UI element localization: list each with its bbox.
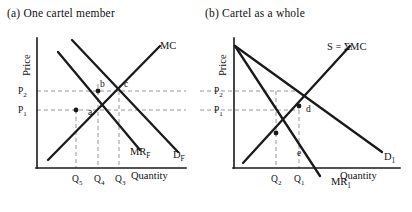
panel-b-point-label-e: e (297, 148, 301, 158)
panel-a-q4-base: Q (94, 174, 101, 184)
panel-b-price-tick-p1: P1 (214, 105, 223, 118)
panel-a-q5-base: Q (72, 174, 79, 184)
panel-a-p1-sub: 1 (23, 110, 27, 118)
panel-b-p1-sub: 1 (219, 110, 223, 118)
panel-a-point-label-a: a (88, 107, 92, 117)
panel-a-mc-curve (48, 46, 160, 160)
panel-b-supply-curve-label: S = ΣMC (327, 41, 366, 52)
panel-a-marginal-revenue-curve (58, 52, 140, 150)
panel-a-q4-sub: 4 (101, 179, 105, 187)
panel-b-y-axis-label: Price (217, 54, 228, 76)
panel-a-mrf-curve-label: MRF (130, 146, 151, 160)
panel-b-mr1-base: MR (331, 176, 347, 187)
panel-a-q3-base: Q (115, 174, 122, 184)
panel-b-quantity-tick-q2: Q2 (271, 174, 281, 187)
panel-b-q1-sub: 1 (301, 179, 305, 187)
panel-a-quantity-tick-q5: Q5 (72, 174, 82, 187)
panel-a-df-sub: F (181, 154, 185, 163)
panel-a-point-label-c: c (124, 79, 128, 89)
panel-b-axes (233, 38, 400, 168)
panel-a-mrf-sub: F (146, 151, 150, 160)
panel-a-df-base: D (173, 149, 181, 160)
panel-b-p2-sub: 2 (219, 91, 223, 99)
panel-a-mrf-base: MR (130, 146, 146, 157)
economics-figure: (a) One cartel member (b) Cartel as a wh… (0, 0, 412, 212)
panel-b-mr1-sub: 1 (347, 181, 351, 190)
panel-a-q5-sub: 5 (79, 179, 83, 187)
panel-b-d1-curve-label: D1 (384, 151, 395, 165)
panel-b-point-d (297, 104, 302, 109)
panel-a-point-label-b: b (100, 79, 105, 89)
panel-b-d1-sub: 1 (392, 156, 396, 165)
panel-a-p2-sub: 2 (23, 91, 27, 99)
panel-b-q2-sub: 2 (278, 179, 282, 187)
panel-a-quantity-tick-q3: Q3 (115, 174, 125, 187)
panel-b-price-tick-p2: P2 (214, 86, 223, 99)
panel-b-demand-curve (235, 46, 382, 152)
panel-a-mc-curve-label: MC (160, 40, 176, 51)
panel-a-y-axis-label: Price (21, 54, 32, 76)
panel-a-point-a (74, 108, 79, 113)
panel-a-demand-curve (72, 40, 178, 152)
panel-b-point-mr-supply (274, 131, 279, 136)
panel-a-quantity-tick-q4: Q4 (94, 174, 104, 187)
panel-b-d1-base: D (384, 151, 392, 162)
panel-b-q2-base: Q (271, 174, 278, 184)
panel-a-mc-base: MC (160, 40, 176, 51)
panel-b-points (274, 104, 302, 136)
panel-b-mr1-curve-label: MR1 (331, 176, 351, 190)
panel-a-q3-sub: 3 (122, 179, 126, 187)
panel-a-point-b (96, 89, 101, 94)
panel-a-points (74, 89, 101, 113)
panel-b-q1-base: Q (294, 174, 301, 184)
panel-a-df-curve-label: DF (173, 149, 185, 163)
panel-a-plot (36, 38, 186, 168)
panel-a-x-axis-label: Quantity (131, 170, 168, 181)
panel-a-price-tick-p2: P2 (18, 86, 27, 99)
panel-b-point-label-d: d (306, 104, 311, 114)
panel-b-quantity-tick-q1: Q1 (294, 174, 304, 187)
panel-a-price-tick-p1: P1 (18, 105, 27, 118)
